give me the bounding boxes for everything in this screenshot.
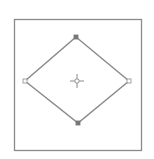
vertex-handle-left[interactable] xyxy=(23,79,27,83)
drawing-canvas[interactable] xyxy=(0,0,154,159)
diagram-svg xyxy=(0,0,154,159)
crosshair-icon[interactable] xyxy=(70,74,84,88)
vertex-handle-top[interactable] xyxy=(74,35,78,39)
vertex-handle-bottom[interactable] xyxy=(76,121,80,125)
diamond-shape[interactable] xyxy=(25,37,129,123)
vertex-handle-right[interactable] xyxy=(127,79,131,83)
